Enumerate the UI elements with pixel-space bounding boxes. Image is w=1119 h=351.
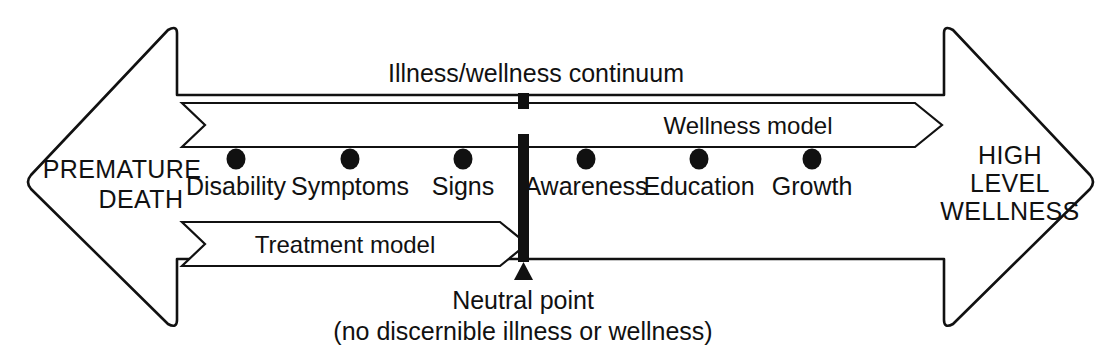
stage-dot-symptoms	[341, 149, 360, 170]
high-level-wellness-line-1: HIGH	[978, 141, 1042, 169]
stage-dot-signs	[454, 149, 473, 170]
stage-label-signs: Signs	[432, 172, 495, 200]
premature-death-line-1: PREMATURE	[43, 155, 202, 183]
neutral-point-triangle-icon	[514, 262, 533, 280]
neutral-point-caption-line-1: Neutral point	[452, 286, 594, 314]
treatment-model-label: Treatment model	[255, 231, 436, 258]
stage-label-disability: Disability	[186, 172, 287, 200]
stage-label-education: Education	[643, 172, 754, 200]
stage-label-symptoms: Symptoms	[291, 172, 409, 200]
premature-death-line-2: DEATH	[99, 185, 184, 213]
stage-dot-awareness	[577, 149, 596, 170]
stage-dot-disability	[227, 149, 246, 170]
wellness-model-label: Wellness model	[664, 112, 833, 139]
stage-dot-growth	[803, 149, 822, 170]
neutral-point-caption-line-2: (no discernible illness or wellness)	[333, 317, 712, 345]
high-level-wellness-line-2: LEVEL	[970, 169, 1050, 197]
neutral-point-bar-upper	[518, 93, 529, 109]
high-level-wellness-line-3: WELLNESS	[940, 197, 1079, 225]
continuum-diagram-canvas: Illness/wellness continuum Wellness mode…	[0, 0, 1119, 351]
stage-label-awareness: Awareness	[524, 172, 647, 200]
stage-dot-education	[690, 149, 709, 170]
stage-label-growth: Growth	[772, 172, 853, 200]
continuum-title-label: Illness/wellness continuum	[388, 59, 684, 87]
illness-wellness-continuum-figure: Illness/wellness continuum Wellness mode…	[0, 0, 1119, 351]
